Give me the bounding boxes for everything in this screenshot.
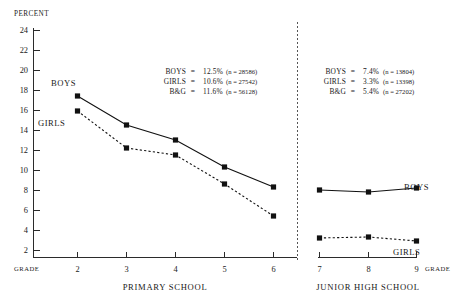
annotation-row-label: B&G [169,87,186,96]
x-tick-label: 7 [317,265,321,274]
data-point-marker [414,238,419,243]
series-label-boys-left: BOYS [51,78,76,88]
series-label-girls-left: GIRLS [38,118,65,128]
annotation-row-percent: 5.4% [363,87,379,96]
annotation-row-label: B&G [329,87,346,96]
data-point-marker [75,108,80,113]
data-point-marker [366,234,371,239]
girls-line-primary [78,111,274,216]
y-tick-label: 14 [20,126,29,135]
data-point-marker [124,145,129,150]
x-axis-ticks-primary [78,252,274,258]
annotation-row-percent: 12.5% [203,67,223,76]
y-tick-label: 10 [20,166,28,175]
y-tick-label: 20 [20,66,28,75]
annotation-row-n: (n = 13398) [383,78,414,86]
annotation-row-n: (n = 56128) [226,88,257,96]
annotation-row-label: BOYS [165,67,186,76]
data-point-marker [366,189,371,194]
annotation-row-percent: 7.4% [363,67,379,76]
x-tick-label: 6 [271,265,275,274]
data-point-marker [317,235,322,240]
x-tick-label: 8 [366,265,370,274]
y-tick-label: 18 [20,86,28,95]
annotation-row-equals: = [351,77,355,86]
percent-by-grade-line-chart: PERCENT 24 22 20 18 16 14 12 10 8 6 [0,0,458,300]
annotation-row-n: (n = 28586) [226,68,257,76]
annotation-row-equals: = [351,87,355,96]
data-point-marker [173,137,178,142]
annotation-row-percent: 10.6% [203,77,223,86]
section-label-junior: JUNIOR HIGH SCHOOL [316,282,419,292]
annotation-row-equals: = [191,87,195,96]
annotation-row-equals: = [191,67,195,76]
y-axis-title: PERCENT [14,10,49,18]
annotation-row-n: (n = 27542) [226,78,257,86]
annotation-row-percent: 11.6% [203,87,223,96]
annotation-row-equals: = [351,67,355,76]
y-tick-label: 16 [20,106,28,115]
data-point-marker [222,181,227,186]
annotation-row-n: (n = 13804) [383,68,414,76]
y-tick-label: 6 [24,206,28,215]
x-axis-title-left: GRADE [14,265,39,272]
y-tick-label: 4 [24,226,29,235]
y-tick-label: 22 [20,46,28,55]
data-point-marker [75,93,80,98]
annotation-row-n: (n = 27202) [383,88,414,96]
y-tick-label: 24 [20,26,29,35]
x-tick-label: 4 [173,265,178,274]
annotation-row-equals: = [191,77,195,86]
x-tick-label: 5 [222,265,226,274]
boys-data-points [75,93,419,194]
x-tick-label: 3 [124,265,128,274]
annotation-primary-school: BOYS = 12.5% (n = 28586) GIRLS = 10.6% (… [164,67,258,96]
data-point-marker [317,187,322,192]
annotation-row-label: GIRLS [324,77,346,86]
x-tick-label: 2 [75,265,79,274]
data-point-marker [124,122,129,127]
section-label-primary: PRIMARY SCHOOL [123,282,208,292]
chart-container: PERCENT 24 22 20 18 16 14 12 10 8 6 [0,0,458,300]
y-tick-label: 2 [24,246,28,255]
annotation-row-label: BOYS [325,67,346,76]
y-tick-label: 8 [24,186,28,195]
data-point-marker [271,184,276,189]
annotation-row-label: GIRLS [164,77,186,86]
data-point-marker [173,152,178,157]
x-tick-label: 9 [414,265,418,274]
y-tick-label: 12 [20,146,28,155]
annotation-row-percent: 3.3% [363,77,379,86]
x-axis-title-right: GRADE [425,265,450,272]
series-label-boys-right: BOYS [404,182,429,192]
data-point-marker [222,164,227,169]
data-point-marker [271,213,276,218]
series-label-girls-right: GIRLS [393,247,420,257]
y-axis-ticks: 24 22 20 18 16 14 12 10 8 6 4 2 [20,26,40,255]
annotation-junior-high-school: BOYS = 7.4% (n = 13804) GIRLS = 3.3% (n … [324,67,415,96]
